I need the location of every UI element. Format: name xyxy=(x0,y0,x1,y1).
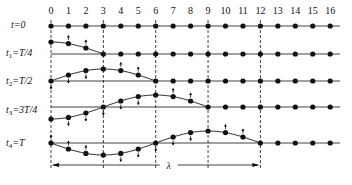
particle xyxy=(258,23,263,28)
particle xyxy=(240,134,245,139)
arrow-head-icon xyxy=(189,139,192,142)
particle xyxy=(153,92,158,97)
particle xyxy=(223,104,228,109)
particle xyxy=(240,104,245,109)
particle xyxy=(83,151,88,156)
time-label-3: t3=3T/4 xyxy=(6,104,37,117)
particle-index: 6 xyxy=(153,5,158,16)
particle xyxy=(118,51,123,56)
particle xyxy=(188,130,193,135)
particle xyxy=(223,78,228,83)
arrow-head-icon xyxy=(67,35,70,38)
particle xyxy=(136,23,141,28)
particle xyxy=(328,104,333,109)
particle xyxy=(136,72,141,77)
arrow-head-icon xyxy=(119,107,122,110)
arrow-head-icon xyxy=(67,81,70,84)
arrow-head-icon xyxy=(189,93,192,96)
particle xyxy=(205,23,210,28)
particle xyxy=(223,23,228,28)
particle xyxy=(153,140,158,145)
particle-index: 8 xyxy=(188,5,193,16)
particle xyxy=(310,140,315,145)
particle xyxy=(293,140,298,145)
particle xyxy=(66,72,71,77)
particle xyxy=(83,110,88,115)
particle xyxy=(101,51,106,56)
arrow-right-icon xyxy=(252,163,259,167)
particle-index: 12 xyxy=(255,5,265,16)
particle xyxy=(275,51,280,56)
particle-index: 10 xyxy=(221,5,231,16)
particle-index-labels: 012345678910111213141516 xyxy=(49,5,336,16)
particle-index: 4 xyxy=(118,5,123,16)
particle xyxy=(205,78,210,83)
particle-index: 14 xyxy=(290,5,300,16)
particle xyxy=(310,23,315,28)
particle xyxy=(275,140,280,145)
particle xyxy=(171,51,176,56)
particle-index: 3 xyxy=(101,5,106,16)
particle xyxy=(223,130,228,135)
particle xyxy=(66,115,71,120)
row-3 xyxy=(48,88,340,126)
particle-index: 11 xyxy=(238,5,248,16)
particle xyxy=(293,78,298,83)
arrow-head-icon xyxy=(84,40,87,43)
particle xyxy=(48,78,53,83)
particle xyxy=(275,104,280,109)
particle xyxy=(66,146,71,151)
particle-index: 5 xyxy=(136,5,141,16)
row-4 xyxy=(48,124,340,162)
arrow-head-icon xyxy=(119,159,122,162)
arrow-head-icon xyxy=(119,62,122,65)
row-1 xyxy=(48,35,340,56)
particle xyxy=(171,23,176,28)
arrow-head-icon xyxy=(84,145,87,148)
particle-index: 0 xyxy=(49,5,54,16)
particle xyxy=(258,78,263,83)
particle xyxy=(153,23,158,28)
arrow-head-icon xyxy=(50,135,53,138)
particle-index: 15 xyxy=(308,5,318,16)
arrow-head-icon xyxy=(84,119,87,122)
arrow-head-icon xyxy=(137,155,140,158)
particle xyxy=(153,51,158,56)
particle xyxy=(328,140,333,145)
particle xyxy=(275,23,280,28)
particle xyxy=(66,23,71,28)
particle xyxy=(188,23,193,28)
particle xyxy=(101,152,106,157)
particle xyxy=(275,78,280,83)
arrow-left-icon xyxy=(52,163,59,167)
particle xyxy=(136,51,141,56)
particle xyxy=(205,104,210,109)
row-0 xyxy=(48,23,340,28)
arrow-head-icon xyxy=(172,143,175,146)
particle xyxy=(171,134,176,139)
particle-index: 16 xyxy=(325,5,335,16)
particle xyxy=(83,45,88,50)
time-rows xyxy=(48,23,340,161)
arrow-head-icon xyxy=(102,113,105,116)
particle xyxy=(48,39,53,44)
particle-index: 13 xyxy=(273,5,283,16)
particle xyxy=(310,78,315,83)
particle-index: 1 xyxy=(66,5,71,16)
wave-diagram: 012345678910111213141516 t=0t1=T/4t2=T/2… xyxy=(0,0,352,185)
particle xyxy=(171,78,176,83)
particle xyxy=(223,51,228,56)
particle xyxy=(101,66,106,71)
particle-index: 2 xyxy=(83,5,88,16)
time-label-4: t4=T xyxy=(6,137,26,150)
particle xyxy=(258,104,263,109)
particle xyxy=(153,78,158,83)
row-2 xyxy=(48,62,340,89)
particle xyxy=(118,68,123,73)
particle xyxy=(48,116,53,121)
particle xyxy=(83,68,88,73)
particle xyxy=(240,51,245,56)
particle xyxy=(328,78,333,83)
particle xyxy=(240,23,245,28)
wavelength-label: λ xyxy=(166,160,172,171)
